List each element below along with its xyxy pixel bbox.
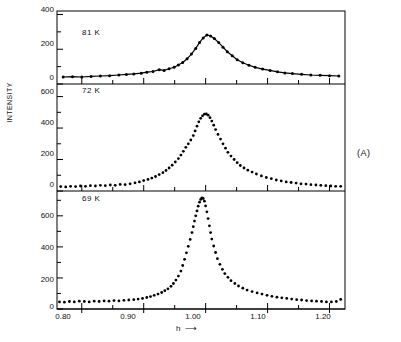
figure-panel-a: INTENSITY 400 200 0 600 400 200 0 600 40… — [0, 0, 401, 342]
plot-canvas — [0, 0, 401, 342]
